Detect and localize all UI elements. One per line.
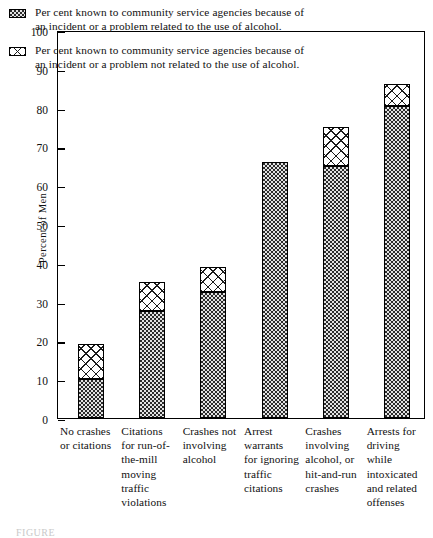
x-axis-label: Arrests for driving while intoxicated an… <box>367 424 422 509</box>
bar-group <box>384 84 410 418</box>
y-tick-label: 80 <box>37 104 49 116</box>
y-tick-label: 60 <box>37 181 49 193</box>
bar-segment <box>78 379 104 418</box>
legend-label: Per cent known to community service agen… <box>35 6 309 33</box>
bar-group <box>78 344 104 418</box>
legend-label: Per cent known to community service agen… <box>35 44 309 71</box>
bar-segment <box>384 106 410 418</box>
bar-group <box>200 267 226 418</box>
y-tick-mark <box>58 342 65 343</box>
y-tick-mark <box>58 148 65 149</box>
x-axis-label: No crashes or citations <box>60 424 115 452</box>
legend-entry: Per cent known to community service agen… <box>9 44 309 71</box>
legend-swatch-dots-icon <box>9 9 26 18</box>
y-tick-label: 50 <box>37 220 49 232</box>
legend-swatch-crosshatch-icon <box>9 47 26 56</box>
x-axis-label: Citations for run-of-the-mill moving tra… <box>121 424 176 509</box>
bar-segment <box>323 166 349 418</box>
bar-segment <box>323 127 349 166</box>
bar-segment <box>200 292 226 418</box>
y-tick-mark <box>58 226 65 227</box>
x-axis-labels: No crashes or citationsCitations for run… <box>57 424 425 524</box>
y-tick-mark <box>58 420 65 421</box>
y-tick-label: 20 <box>37 336 49 348</box>
y-tick-label: 10 <box>37 375 49 387</box>
y-tick-label: 40 <box>37 259 49 271</box>
bar-segment <box>78 344 104 379</box>
x-axis-label: Arrest warrants for ignoring traffic cit… <box>244 424 299 495</box>
bar-segment <box>384 84 410 105</box>
y-tick-mark <box>58 187 65 188</box>
bar-segment <box>139 282 165 311</box>
y-tick-mark <box>58 381 65 382</box>
y-tick-mark <box>58 304 65 305</box>
plot-area: Percent of Men 0102030405060708090100 <box>57 31 425 419</box>
figure-caption: FIGURE <box>16 527 55 538</box>
y-tick-label: 70 <box>37 142 49 154</box>
x-axis-label: Crashes not involving alcohol <box>183 424 238 467</box>
y-tick-mark <box>58 110 65 111</box>
bar-group <box>139 282 165 418</box>
y-tick-mark <box>58 265 65 266</box>
y-tick-label: 30 <box>37 298 49 310</box>
bar-segment <box>262 162 288 418</box>
x-axis-label: Crashes involving alcohol, or hit-and-ru… <box>305 424 360 495</box>
bar-segment <box>200 267 226 292</box>
bar-segment <box>139 311 165 418</box>
bar-group <box>262 162 288 418</box>
legend-entry: Per cent known to community service agen… <box>9 6 309 33</box>
bar-group <box>323 127 349 418</box>
y-tick-label: 0 <box>42 414 48 426</box>
legend: Per cent known to community service agen… <box>9 6 309 82</box>
